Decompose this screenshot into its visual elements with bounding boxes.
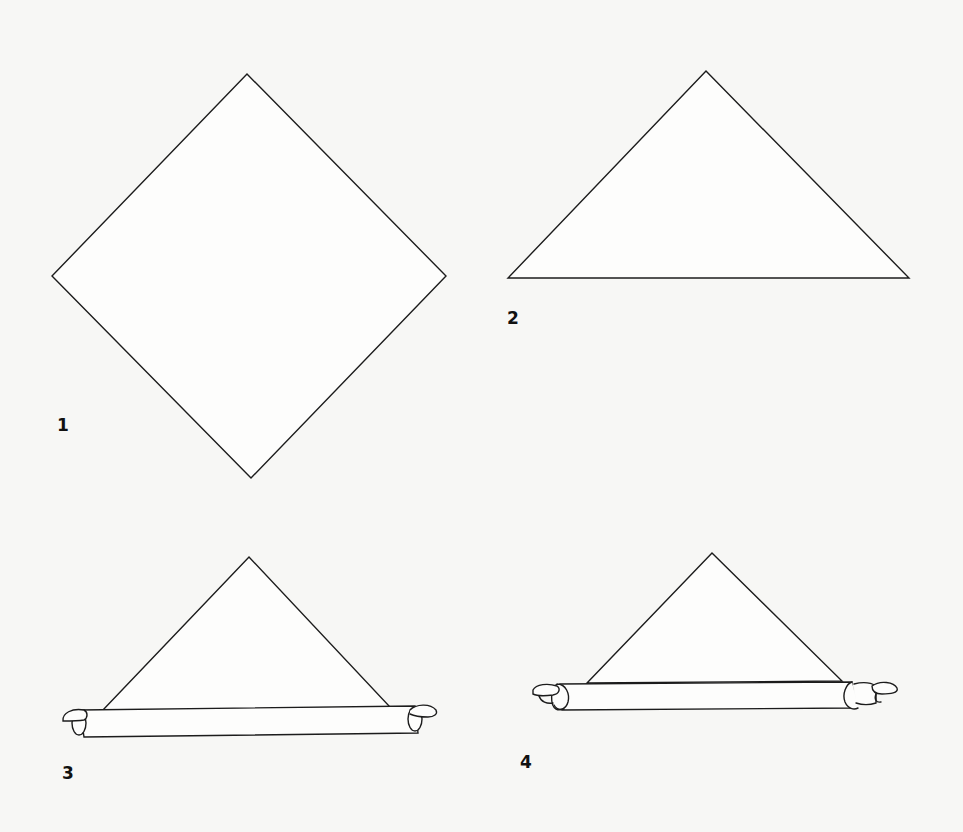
step-4-right-roll xyxy=(844,682,897,709)
step-3-right-curl xyxy=(408,705,437,731)
step-2-triangle xyxy=(508,71,909,278)
step-1-label: 1 xyxy=(57,417,69,434)
diagram-canvas xyxy=(0,0,963,832)
step-4-tube xyxy=(560,682,854,710)
step-3-label: 3 xyxy=(62,765,74,782)
step-2-label: 2 xyxy=(507,310,519,327)
step-4-rolled-triangle xyxy=(533,553,897,710)
step-4-label: 4 xyxy=(520,754,532,771)
step-3-left-curl xyxy=(63,710,87,735)
step-1-diamond xyxy=(52,74,446,478)
instruction-page: 1 2 3 4 xyxy=(0,0,963,832)
step-4-left-roll xyxy=(533,684,569,710)
step-3-tube xyxy=(80,706,418,737)
step-3-triangle xyxy=(102,557,390,711)
step-3-rolled-triangle xyxy=(63,557,437,737)
step-4-triangle xyxy=(587,553,842,683)
